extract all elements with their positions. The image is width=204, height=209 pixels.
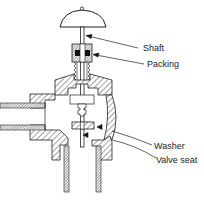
- handle: [60, 7, 106, 27]
- outlet-pipe: [64, 146, 101, 192]
- valve-diagram: Shaft Packing Washer Valve seat: [0, 0, 204, 209]
- label-shaft: Shaft: [143, 43, 165, 53]
- label-washer: Washer: [154, 141, 185, 151]
- packing-nut: [72, 44, 92, 62]
- washer: [72, 122, 94, 129]
- inlet-pipe: [0, 103, 45, 130]
- label-valve-seat: Valve seat: [156, 155, 198, 165]
- label-packing: Packing: [147, 59, 179, 69]
- valve-body: [30, 74, 116, 160]
